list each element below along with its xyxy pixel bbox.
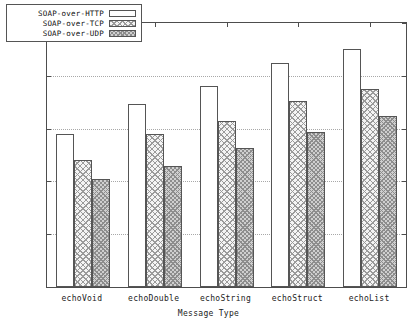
x-tick-label-echoVoid: echoVoid — [61, 294, 102, 303]
legend-label-udp: SOAP-over-UDP — [11, 29, 109, 38]
legend-swatch-tcp — [109, 20, 136, 27]
x-axis-title: Message Type — [0, 309, 417, 318]
y-tick-mark — [402, 129, 407, 130]
y-tick-mark — [46, 76, 51, 77]
x-tick-label-echoStruct: echoStruct — [272, 294, 323, 303]
bar-echoVoid-SOAP-over-UDP — [92, 179, 110, 287]
legend-swatch-http — [109, 10, 136, 17]
x-tick-mark — [370, 22, 371, 27]
y-tick-mark — [46, 181, 51, 182]
plot-area — [46, 22, 407, 288]
bar-echoList-SOAP-over-TCP — [361, 89, 379, 287]
bar-echoString-SOAP-over-UDP — [236, 148, 254, 287]
x-tick-mark — [298, 22, 299, 27]
bar-echoList-SOAP-over-HTTP — [343, 49, 361, 287]
legend-item-udp: SOAP-over-UDP — [11, 28, 136, 38]
y-tick-mark — [402, 76, 407, 77]
bar-echoDouble-SOAP-over-TCP — [146, 134, 164, 287]
y-tick-mark — [46, 129, 51, 130]
legend-item-http: SOAP-over-HTTP — [11, 8, 136, 18]
y-tick-mark — [402, 234, 407, 235]
x-tick-mark — [227, 22, 228, 27]
y-tick-mark — [402, 287, 407, 288]
bar-echoVoid-SOAP-over-TCP — [74, 160, 92, 287]
x-tick-label-echoList: echoList — [349, 294, 390, 303]
x-tick-label-echoString: echoString — [200, 294, 251, 303]
legend-label-tcp: SOAP-over-TCP — [11, 19, 109, 28]
bar-echoString-SOAP-over-HTTP — [200, 86, 218, 287]
bar-echoDouble-SOAP-over-HTTP — [128, 104, 146, 287]
y-tick-mark — [402, 23, 407, 24]
chart-root: Average Response Time (ms) 01020304050 e… — [0, 0, 417, 335]
legend-swatch-udp — [109, 30, 136, 37]
y-tick-mark — [46, 287, 51, 288]
bar-echoList-SOAP-over-UDP — [379, 116, 397, 287]
bar-echoVoid-SOAP-over-HTTP — [56, 134, 74, 287]
bar-echoStruct-SOAP-over-TCP — [289, 101, 307, 287]
bar-echoStruct-SOAP-over-UDP — [307, 132, 325, 287]
legend-label-http: SOAP-over-HTTP — [11, 9, 109, 18]
bar-echoDouble-SOAP-over-UDP — [164, 166, 182, 287]
bar-echoStruct-SOAP-over-HTTP — [271, 63, 289, 287]
x-tick-label-echoDouble: echoDouble — [128, 294, 179, 303]
legend-item-tcp: SOAP-over-TCP — [11, 18, 136, 28]
x-tick-mark — [155, 22, 156, 27]
y-tick-mark — [46, 234, 51, 235]
chart-legend: SOAP-over-HTTP SOAP-over-TCP SOAP-over-U… — [6, 4, 142, 42]
y-tick-mark — [402, 181, 407, 182]
bar-echoString-SOAP-over-TCP — [218, 121, 236, 287]
